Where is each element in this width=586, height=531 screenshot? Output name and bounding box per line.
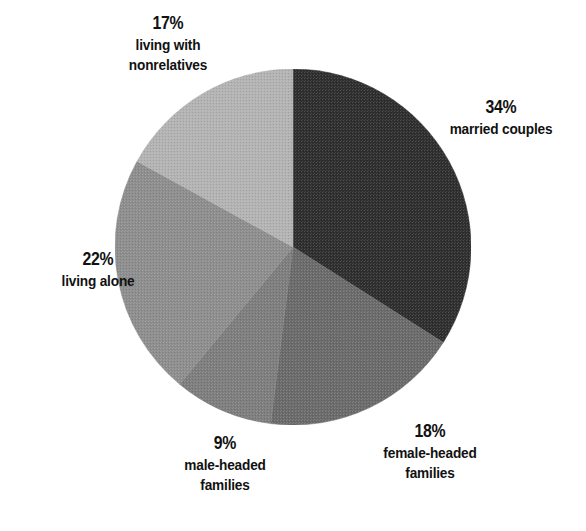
pie-label-text-line1: female-headed (349, 443, 511, 463)
pie-label-text-line1: living with (66, 35, 270, 55)
pie-label-percent: 18% (349, 420, 511, 443)
pie-label-text-line1: living alone (12, 271, 184, 291)
pie-label-percent: 17% (66, 12, 270, 35)
pie-label-text-line2: families (349, 463, 511, 483)
pie-label-living-with-nonrelatives: 17% living with nonrelatives (66, 12, 270, 75)
pie-label-female-headed-families: 18% female-headed families (349, 420, 511, 483)
pie-texture-overlay (115, 69, 471, 425)
pie-label-male-headed-families: 9% male-headed families (150, 432, 300, 495)
pie-label-percent: 22% (12, 248, 184, 271)
pie-label-text-line1: male-headed (150, 455, 300, 475)
pie-label-percent: 9% (150, 432, 300, 455)
pie-label-text-line2: nonrelatives (66, 55, 270, 75)
pie-svg (115, 69, 471, 425)
pie-label-text-line2: families (150, 475, 300, 495)
pie-label-living-alone: 22% living alone (12, 248, 184, 291)
pie-chart-figure: 17% living with nonrelatives 34% married… (0, 0, 586, 531)
pie-chart-graphic (115, 69, 471, 425)
pie-label-married-couples: 34% married couples (426, 96, 576, 139)
pie-label-percent: 34% (426, 96, 576, 119)
pie-label-text-line1: married couples (426, 119, 576, 139)
